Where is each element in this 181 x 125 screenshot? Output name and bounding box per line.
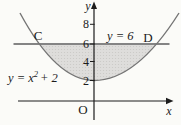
point-d-label: D bbox=[143, 30, 152, 45]
y-tick-label-8: 8 bbox=[83, 17, 89, 31]
curve-equation-rest: + 2 bbox=[40, 71, 58, 85]
y-tick-label-2: 2 bbox=[83, 74, 89, 88]
point-c-label: C bbox=[34, 28, 43, 43]
y-tick-label-6: 6 bbox=[83, 37, 89, 51]
y-tick-label-4: 4 bbox=[83, 55, 89, 69]
curve-equation-superscript: 2 bbox=[34, 69, 39, 79]
curve-equation-label: y = x2+ 2 bbox=[6, 69, 58, 85]
y-axis-label: y bbox=[84, 0, 91, 13]
origin-label: O bbox=[78, 102, 87, 117]
math-figure: 8 6 4 2 y x O C D y = 6 y = x2+ 2 bbox=[0, 0, 181, 125]
plot-svg: 8 6 4 2 y x O C D y = 6 y = x2+ 2 bbox=[0, 0, 181, 125]
y-axis-arrow-icon bbox=[91, 2, 97, 10]
curve-equation-base: y = x bbox=[6, 71, 34, 85]
x-axis-label: x bbox=[165, 104, 172, 118]
line-equation-label: y = 6 bbox=[105, 29, 134, 43]
